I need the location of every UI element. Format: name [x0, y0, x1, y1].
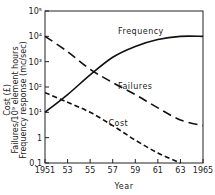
x-axis: 19515355575961631965: [35, 159, 213, 175]
x-tick-label: 57: [108, 166, 118, 175]
y-tick-label: 10⁴: [29, 32, 42, 41]
y-axis-label-line: Frequency response (mc/sec): [19, 41, 28, 158]
x-tick-label: 1965: [193, 166, 213, 175]
x-tick-label: 53: [62, 166, 72, 175]
y-tick-label: 10¹: [29, 108, 42, 117]
x-tick-label: 1951: [35, 166, 55, 175]
series-label-frequency: Frequency: [118, 27, 164, 36]
line-chart: Cost (£)Failures/10⁹ element hoursFreque…: [0, 0, 215, 195]
y-axis: 0.1110¹10²10³10⁴10⁵: [29, 7, 49, 168]
series-label-cost: Cost: [108, 119, 128, 128]
series-label-failures: Failures: [118, 82, 153, 91]
x-tick-label: 59: [130, 166, 140, 175]
series-frequency-line: [45, 36, 203, 112]
series-labels: FrequencyFailuresCost: [108, 27, 163, 127]
y-tick-label: 10⁵: [29, 7, 42, 16]
series-cost-line: [45, 93, 180, 163]
x-tick-label: 55: [85, 166, 95, 175]
y-tick-label: 1: [37, 134, 42, 143]
y-tick-label: 10³: [29, 58, 42, 67]
series-lines: [45, 36, 203, 163]
x-tick-label: 63: [175, 166, 185, 175]
x-tick-label: 61: [153, 166, 163, 175]
y-axis-label: Cost (£)Failures/10⁹ element hoursFreque…: [3, 41, 28, 158]
x-axis-label: Year: [114, 182, 134, 191]
y-tick-label: 10²: [29, 83, 42, 92]
series-failures-line: [45, 36, 203, 125]
